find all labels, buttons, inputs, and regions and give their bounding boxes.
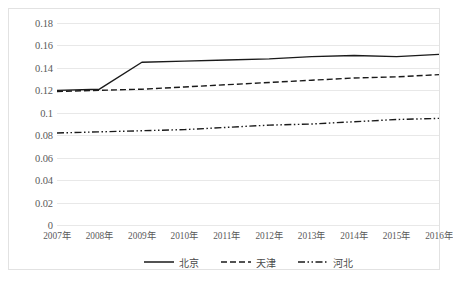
chart-frame: 00.020.040.060.080.10.120.140.160.18 200…: [8, 8, 440, 270]
y-tick-label: 0.1: [40, 107, 53, 118]
x-tick-label: 2008年: [86, 228, 114, 242]
x-tick-label: 2016年: [425, 228, 453, 242]
y-tick-label: 0.08: [35, 130, 53, 141]
x-tick-label: 2015年: [383, 228, 411, 242]
legend-label: 河北: [333, 255, 353, 270]
y-tick-label: 0.02: [35, 197, 53, 208]
chart-legend: 北京天津河北: [57, 253, 439, 271]
legend-swatch-天津: [221, 258, 251, 266]
x-axis-tick-labels: 2007年2008年2009年2010年2011年2012年2013年2014年…: [57, 228, 439, 244]
x-tick-label: 2009年: [128, 228, 156, 242]
legend-item-天津[interactable]: 天津: [221, 255, 276, 270]
x-tick-label: 2013年: [298, 228, 326, 242]
legend-swatch-河北: [298, 258, 328, 266]
x-tick-label: 2007年: [43, 228, 71, 242]
series-lines: [57, 23, 439, 225]
gridline: [57, 225, 439, 226]
y-tick-label: 0.12: [35, 85, 53, 96]
series-line-北京: [57, 54, 439, 90]
y-tick-label: 0.18: [35, 18, 53, 29]
x-tick-label: 2010年: [171, 228, 199, 242]
legend-item-河北[interactable]: 河北: [298, 255, 353, 270]
y-tick-label: 0.04: [35, 175, 53, 186]
legend-label: 北京: [179, 255, 199, 270]
y-tick-label: 0.06: [35, 152, 53, 163]
plot-area: [57, 23, 439, 225]
x-tick-label: 2011年: [213, 228, 240, 242]
x-tick-label: 2012年: [255, 228, 283, 242]
legend-label: 天津: [256, 255, 276, 270]
series-line-河北: [57, 118, 439, 133]
series-line-天津: [57, 75, 439, 92]
legend-item-北京[interactable]: 北京: [144, 255, 199, 270]
y-axis-tick-labels: 00.020.040.060.080.10.120.140.160.18: [9, 23, 53, 225]
x-tick-label: 2014年: [340, 228, 368, 242]
y-tick-label: 0.14: [35, 62, 53, 73]
legend-swatch-北京: [144, 258, 174, 266]
y-tick-label: 0.16: [35, 40, 53, 51]
